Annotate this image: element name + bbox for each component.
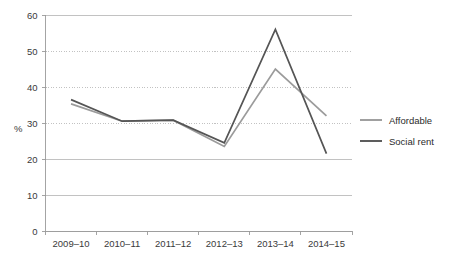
y-axis-title: % (14, 123, 23, 134)
line-chart: 0102030405060 2009–102010–112011–122012–… (0, 0, 449, 262)
y-tick-label: 50 (27, 46, 38, 57)
legend-label-affordable[interactable]: Affordable (389, 115, 432, 126)
x-tick-labels-group: 2009–102010–112011–122012–132013–142014–… (53, 238, 345, 249)
y-tick-label: 60 (27, 10, 38, 21)
gridlines-group (46, 15, 353, 231)
legend: AffordableSocial rent (360, 115, 434, 147)
y-tickmarks-group (42, 15, 46, 231)
x-tickmarks-group (46, 231, 353, 235)
x-tick-label: 2012–13 (206, 238, 243, 249)
x-tick-label: 2009–10 (53, 238, 90, 249)
y-axis-title-group: % (14, 123, 23, 134)
x-tick-label: 2014–15 (308, 238, 345, 249)
y-tick-label: 0 (32, 226, 37, 237)
x-tick-label: 2010–11 (104, 238, 140, 249)
x-tick-label: 2011–12 (155, 238, 191, 249)
y-tick-label: 10 (27, 190, 38, 201)
chart-canvas: 0102030405060 2009–102010–112011–122012–… (0, 0, 449, 262)
series-lines-group (71, 29, 326, 153)
legend-label-social-rent[interactable]: Social rent (389, 136, 434, 147)
series-line-affordable (71, 69, 326, 146)
y-tick-label: 20 (27, 154, 38, 165)
x-tick-label: 2013–14 (257, 238, 294, 249)
y-tick-label: 30 (27, 118, 38, 129)
y-tick-labels-group: 0102030405060 (27, 10, 38, 237)
series-line-social-rent (71, 29, 326, 153)
y-tick-label: 40 (27, 82, 38, 93)
